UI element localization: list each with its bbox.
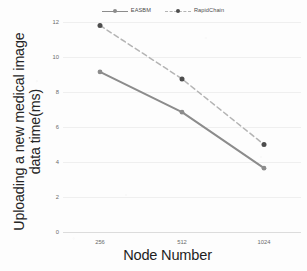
gridline — [63, 232, 301, 233]
series-layer — [63, 22, 301, 232]
data-point-marker[interactable] — [98, 69, 103, 74]
legend-line-swatch-rapidchain — [165, 8, 191, 15]
series-line-easbm — [100, 72, 264, 168]
data-point-marker[interactable] — [98, 23, 103, 28]
y-axis-title-line-1: Uploading a new medical image — [12, 23, 28, 241]
x-axis-tick-label: 512 — [177, 239, 187, 245]
y-axis-tick-label: 10 — [53, 54, 59, 60]
y-axis-title-line-2: data time(ms) — [28, 23, 44, 241]
y-axis-title: Uploading a new medical image data time(… — [12, 23, 43, 241]
chart-figure: EASBM RapidChain Uploading a new medical… — [0, 0, 307, 271]
y-axis-tick-label: 2 — [56, 194, 59, 200]
y-axis-tick-label: 8 — [56, 89, 59, 95]
chart-legend: EASBM RapidChain — [88, 3, 238, 19]
data-point-marker[interactable] — [262, 142, 267, 147]
y-axis-tick-label: 12 — [53, 19, 59, 25]
x-axis-tick-label: 1024 — [258, 239, 271, 245]
data-point-marker[interactable] — [180, 76, 185, 81]
legend-label-rapidchain: RapidChain — [194, 8, 224, 14]
y-axis-tick-label: 0 — [56, 229, 59, 235]
data-point-marker[interactable] — [262, 166, 267, 171]
y-axis-tick-label: 4 — [56, 159, 59, 165]
legend-item-easbm[interactable]: EASBM — [102, 8, 151, 15]
data-point-marker[interactable] — [180, 110, 185, 115]
legend-label-easbm: EASBM — [131, 8, 151, 14]
plot-area: 024681012 2565121024 — [63, 22, 301, 232]
x-axis-title: Node Number — [60, 247, 275, 263]
x-axis-tick-label: 256 — [95, 239, 105, 245]
legend-line-swatch-easbm — [102, 8, 128, 15]
y-axis-tick-label: 6 — [56, 124, 59, 130]
legend-item-rapidchain[interactable]: RapidChain — [165, 8, 224, 15]
